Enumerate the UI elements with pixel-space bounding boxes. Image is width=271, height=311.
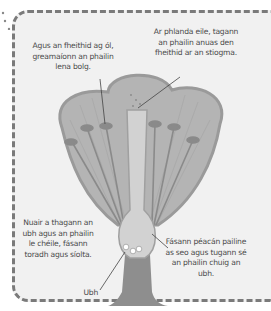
label-pollen-tube: Fásann péacán pailine as seo agus tugann…: [165, 237, 247, 279]
label-pollen-on-insect: Agus an fheithid ag ól, greamaíonn an ph…: [30, 41, 116, 73]
label-pollen-on-stigma: Ar phlanda eile, tagann an phailin anuas…: [150, 27, 242, 59]
label-fruit-and-seeds: Nuair a thagann an ubh agus an phailin l…: [20, 218, 96, 260]
label-egg: Ubh: [78, 288, 98, 299]
stem: [108, 255, 168, 306]
